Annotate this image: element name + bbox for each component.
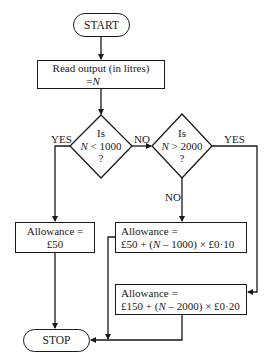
allowance-high-box: Allowance = £150 + (N – 2000) × £0·20 (115, 284, 247, 315)
allowance-low-text: Allowance = £50 (20, 225, 90, 251)
decision-1-yes-label: YES (51, 133, 72, 145)
decision-2-yes-label: YES (224, 133, 245, 145)
decision-2-text: Is N > 2000 ? (152, 127, 212, 165)
decision-1-text: Is N < 1000 ? (71, 127, 131, 165)
read-output-box: Read output (in litres) =N (37, 60, 165, 89)
decision-1-no-label: NO (134, 133, 150, 145)
read-output-line2: =N (86, 75, 100, 88)
decision-2-no-label: NO (165, 191, 181, 203)
allowance-low-box: Allowance = £50 (15, 222, 95, 253)
start-terminal: START (73, 13, 130, 37)
read-output-line1: Read output (in litres) (53, 62, 150, 75)
start-label: START (84, 19, 119, 32)
stop-label: STOP (43, 334, 71, 347)
stop-terminal: STOP (23, 329, 90, 352)
allowance-mid-box: Allowance = £50 + (N – 1000) × £0·10 (115, 222, 247, 253)
